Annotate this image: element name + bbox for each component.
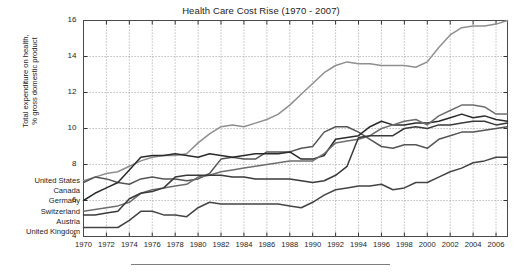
y-tick-label: 8: [53, 159, 77, 168]
data-series: [84, 21, 508, 228]
series-line-germany: [84, 114, 508, 200]
legend-entry-united-states: United States: [8, 176, 80, 186]
bottom-divider: [131, 264, 390, 265]
legend-entry-austria: Austria: [8, 217, 80, 227]
legend: United StatesCanadaGermanySwitzerlandAus…: [8, 176, 80, 237]
legend-entry-united-kingdom: United Kingdom: [8, 227, 80, 237]
y-tick-label: 16: [53, 15, 77, 24]
x-tick-label: 2006: [479, 240, 513, 249]
legend-entry-switzerland: Switzerland: [8, 207, 80, 217]
grid-lines: [84, 21, 508, 237]
y-tick-label: 10: [53, 123, 77, 132]
legend-entry-canada: Canada: [8, 186, 80, 196]
y-tick-label: 12: [53, 87, 77, 96]
y-tick-label: 14: [53, 51, 77, 60]
chart-container: Health Care Cost Rise (1970 - 2007) Tota…: [0, 0, 522, 273]
legend-entry-germany: Germany: [8, 196, 80, 206]
